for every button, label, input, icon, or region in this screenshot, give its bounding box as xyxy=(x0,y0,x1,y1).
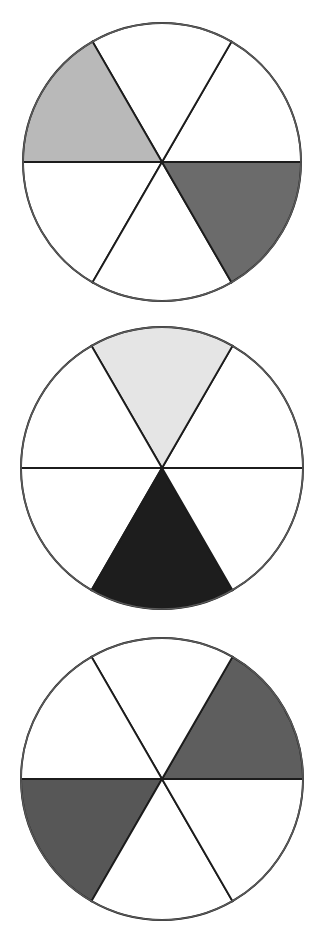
circle-3 xyxy=(21,638,303,920)
circle-1 xyxy=(23,23,301,301)
fraction-circles-figure xyxy=(0,0,322,950)
pie-charts-svg xyxy=(0,0,322,950)
circle-2 xyxy=(21,327,303,609)
circles-group xyxy=(21,23,303,920)
